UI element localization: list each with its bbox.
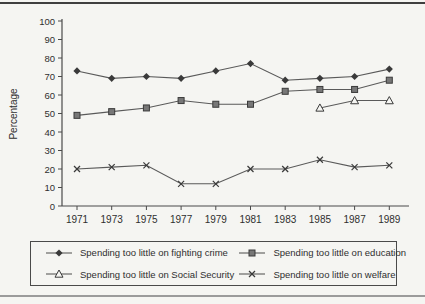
scanned-figure-page: 0102030405060708090100197119731975197719… (0, 0, 425, 304)
svg-text:Percentage: Percentage (8, 88, 19, 140)
svg-text:1987: 1987 (343, 214, 366, 225)
legend-label-welfare: Spending too little on welfare (273, 269, 395, 280)
svg-text:1983: 1983 (274, 214, 297, 225)
legend-label-social-security: Spending too little on Social Security (80, 269, 234, 280)
svg-text:0: 0 (50, 201, 55, 212)
triangle-marker-icon (45, 269, 73, 279)
svg-text:20: 20 (44, 164, 55, 175)
svg-text:1989: 1989 (378, 214, 401, 225)
svg-text:90: 90 (44, 34, 55, 45)
svg-text:60: 60 (44, 90, 55, 101)
line-chart-area: 0102030405060708090100197119731975197719… (0, 0, 425, 236)
svg-text:1971: 1971 (66, 214, 89, 225)
svg-text:50: 50 (44, 108, 55, 119)
svg-text:1977: 1977 (170, 214, 193, 225)
legend: Spending too little on fighting crime Sp… (30, 241, 397, 286)
svg-text:30: 30 (44, 145, 55, 156)
percentage-line-chart: 0102030405060708090100197119731975197719… (0, 0, 425, 236)
svg-text:10: 10 (44, 182, 55, 193)
svg-text:100: 100 (39, 16, 55, 27)
svg-text:1981: 1981 (239, 214, 262, 225)
legend-item-fighting-crime: Spending too little on fighting crime (31, 247, 224, 258)
svg-text:1985: 1985 (309, 214, 332, 225)
legend-item-welfare: Spending too little on welfare (224, 269, 396, 280)
svg-text:80: 80 (44, 53, 55, 64)
svg-text:40: 40 (44, 127, 55, 138)
legend-label-fighting-crime: Spending too little on fighting crime (80, 247, 228, 258)
svg-text:70: 70 (44, 71, 55, 82)
svg-text:1975: 1975 (135, 214, 158, 225)
legend-item-social-security: Spending too little on Social Security (31, 269, 224, 280)
svg-text:1973: 1973 (101, 214, 124, 225)
svg-text:1979: 1979 (205, 214, 228, 225)
square-marker-icon (238, 248, 266, 258)
x-marker-icon (238, 269, 266, 279)
bottom-rule (0, 295, 425, 297)
diamond-marker-icon (45, 248, 73, 258)
legend-label-education: Spending too little on education (273, 247, 406, 258)
legend-item-education: Spending too little on education (224, 247, 396, 258)
